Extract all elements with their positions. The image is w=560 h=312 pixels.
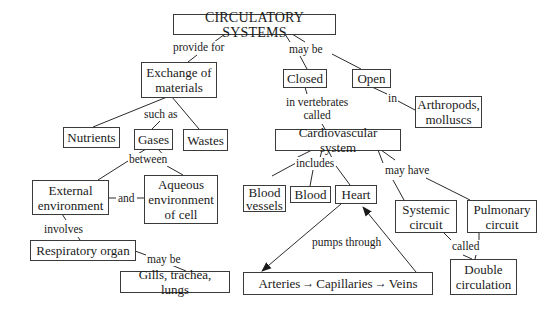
- node-arteries-capillaries-veins: Arteries → Capillaries → Veins: [243, 272, 433, 295]
- link-label-such-as: such as: [143, 108, 179, 121]
- flow-veins: Veins: [389, 276, 418, 291]
- node-nutrients: Nutrients: [63, 127, 120, 148]
- arrow-right-icon: →: [375, 276, 387, 291]
- node-external-environment: External environment: [32, 180, 109, 215]
- node-systemic-circuit: Systemic circuit: [395, 200, 457, 233]
- concept-map: CIRCULATORY SYSTEMS Exchange of material…: [0, 0, 560, 312]
- link-label-pumps-through: pumps through: [311, 236, 382, 249]
- link-label-in: in: [387, 92, 398, 105]
- node-cardiovascular-system: Cardiovascular system: [275, 129, 401, 151]
- link-label-provide-for: provide for: [172, 41, 225, 54]
- node-double-circulation: Double circulation: [450, 259, 517, 295]
- node-blood: Blood: [290, 186, 331, 203]
- node-arthropods-molluscs: Arthropods, molluscs: [415, 96, 482, 128]
- node-open: Open: [352, 69, 391, 88]
- link-label-and: and: [117, 192, 136, 205]
- link-label-may-have: may have: [384, 164, 430, 177]
- link-label-in-vertebrates-called: in vertebrates called: [285, 96, 349, 122]
- link-label-may-be: may be: [288, 43, 324, 56]
- link-label-between: between: [128, 153, 168, 166]
- node-circulatory-systems: CIRCULATORY SYSTEMS: [173, 14, 336, 35]
- node-closed: Closed: [283, 69, 327, 88]
- link-label-involves: involves: [43, 223, 84, 236]
- node-heart: Heart: [335, 185, 377, 204]
- node-respiratory-organ: Respiratory organ: [30, 240, 136, 261]
- flow-capillaries: Capillaries: [316, 276, 372, 291]
- flow-arteries: Arteries: [258, 276, 300, 291]
- node-aqueous-environment-of-cell: Aqueous environment of cell: [144, 175, 218, 224]
- link-label-called: called: [451, 240, 480, 253]
- node-gases: Gases: [134, 129, 173, 150]
- node-blood-vessels: Blood vessels: [243, 185, 286, 212]
- arrow-right-icon: →: [302, 276, 314, 291]
- link-label-may-be-2: may be: [146, 253, 182, 266]
- node-wastes: Wastes: [183, 129, 228, 151]
- link-label-includes: includes: [295, 157, 335, 170]
- node-exchange-of-materials: Exchange of materials: [141, 62, 217, 98]
- node-gills-trachea-lungs: Gills, trachea, lungs: [120, 271, 230, 293]
- node-pulmonary-circuit: Pulmonary circuit: [467, 200, 537, 233]
